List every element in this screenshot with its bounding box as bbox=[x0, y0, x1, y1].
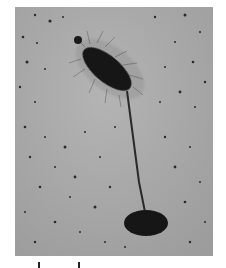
micrograph-image bbox=[15, 7, 213, 256]
scale-bar-left-tick bbox=[38, 262, 40, 268]
bacterium-lower bbox=[124, 210, 168, 236]
bacterium-knob bbox=[74, 36, 82, 44]
scale-bar-right-tick bbox=[78, 262, 80, 268]
micrograph-drawing bbox=[15, 7, 213, 256]
